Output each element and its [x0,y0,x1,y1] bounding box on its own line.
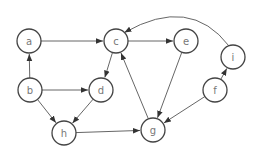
edge-h-to-g [76,130,140,132]
node-label: c [113,36,119,47]
node-f: f [203,78,227,102]
node-label: d [98,85,104,96]
edge-f-to-g [164,97,205,123]
node-b: b [18,78,42,102]
node-label: b [27,85,33,96]
node-d: d [89,78,113,102]
edge-d-to-h [72,99,93,123]
edge-c-to-d [105,52,113,77]
graph-canvas: aceibdfhg [0,0,255,151]
node-g: g [141,118,165,142]
node-label: i [232,52,235,63]
node-h: h [52,121,76,145]
node-e: e [174,29,198,53]
node-i: i [221,45,245,69]
directed-graph: aceibdfhg [0,0,255,151]
edge-f-to-i [221,68,227,79]
node-label: h [61,128,67,139]
edges-layer [29,17,229,133]
node-label: e [183,36,189,47]
edge-b-to-h [37,99,55,122]
node-label: f [213,85,217,96]
node-a: a [17,29,41,53]
edge-g-to-c [121,53,148,119]
node-label: a [26,36,32,47]
edge-e-to-g [158,52,182,118]
nodes-layer: aceibdfhg [17,29,245,145]
node-c: c [104,29,128,53]
node-label: g [150,125,156,136]
